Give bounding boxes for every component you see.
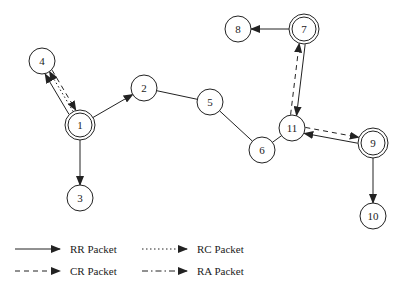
edge-11-to-9-cr <box>305 127 358 137</box>
node-label: 4 <box>39 55 45 67</box>
node-8: 8 <box>225 16 251 42</box>
node-4: 4 <box>29 48 55 74</box>
legend-item-rc: RC Packet <box>142 243 244 255</box>
edge-6-to-11-link <box>272 136 281 143</box>
node-10: 10 <box>360 203 386 229</box>
edge-5-to-6-link <box>220 111 253 141</box>
node-3: 3 <box>67 185 93 211</box>
node-6: 6 <box>249 137 275 163</box>
node-label: 2 <box>141 82 147 94</box>
legend-item-rr: RR Packet <box>15 243 117 255</box>
edge-2-to-5-link <box>157 91 198 100</box>
node-label: 3 <box>77 192 83 204</box>
node-label: 6 <box>259 144 265 156</box>
node-7: 7 <box>289 14 319 44</box>
edge-7-to-11-rr <box>297 44 306 115</box>
node-label: 9 <box>370 137 376 149</box>
node-label: 1 <box>77 119 83 131</box>
nodes-layer: 1234567891011 <box>29 14 388 229</box>
edge-1-to-4-rc <box>49 72 73 112</box>
legend-label: RC Packet <box>197 243 244 255</box>
node-label: 7 <box>301 23 307 35</box>
node-1: 1 <box>65 110 95 140</box>
legend-item-ra: RA Packet <box>142 265 244 277</box>
legend-item-cr: CR Packet <box>15 265 117 277</box>
edges-layer <box>45 29 373 203</box>
edge-1-to-4-rr <box>45 74 69 114</box>
edge-4-to-1-cr <box>52 70 76 110</box>
network-diagram: 1234567891011 RR PacketRC PacketCR Packe… <box>0 0 400 293</box>
node-label: 11 <box>287 122 298 134</box>
node-11: 11 <box>279 115 305 141</box>
edge-9-to-11-rr <box>304 133 357 143</box>
diagram-svg: 1234567891011 RR PacketRC PacketCR Packe… <box>0 0 400 293</box>
node-label: 8 <box>235 23 241 35</box>
legend: RR PacketRC PacketCR PacketRA Packet <box>15 243 244 277</box>
node-label: 5 <box>207 96 213 108</box>
edge-1-to-2-rr <box>93 95 133 118</box>
node-label: 10 <box>368 210 380 222</box>
legend-label: RR Packet <box>70 243 117 255</box>
node-2: 2 <box>131 75 157 101</box>
node-5: 5 <box>197 89 223 115</box>
node-9: 9 <box>358 128 388 158</box>
legend-label: CR Packet <box>70 265 117 277</box>
legend-label: RA Packet <box>197 265 244 277</box>
